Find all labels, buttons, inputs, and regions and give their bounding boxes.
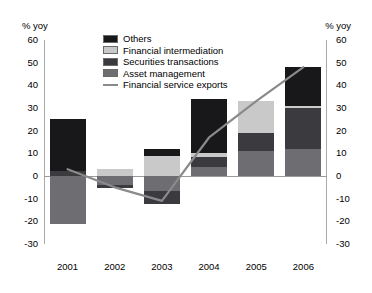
y-tick-left-30: 30 bbox=[14, 103, 38, 113]
x-tick-2004: 2004 bbox=[189, 261, 229, 272]
legend-item-others[interactable]: Others bbox=[103, 33, 228, 45]
legend-label: Financial service exports bbox=[123, 79, 228, 91]
y-tick-right-30: 30 bbox=[336, 103, 360, 113]
chart-container: % yoy % yoy 6050403020100-10-20-30 60504… bbox=[0, 0, 372, 293]
y-tick-right-neg30: -30 bbox=[336, 239, 360, 249]
x-tick-2003: 2003 bbox=[142, 261, 182, 272]
y-tick-right-0: 0 bbox=[336, 171, 360, 181]
legend-label: Financial intermediation bbox=[123, 45, 223, 57]
y-tick-right-neg20: -20 bbox=[336, 216, 360, 226]
y-tick-left-10: 10 bbox=[14, 148, 38, 158]
y-tick-right-40: 40 bbox=[336, 80, 360, 90]
legend-swatch-securities-transactions bbox=[103, 58, 118, 66]
legend-swatch-others bbox=[103, 35, 118, 43]
legend-item-securities-transactions[interactable]: Securities transactions bbox=[103, 56, 228, 68]
y-axis-unit-right: % yoy bbox=[325, 20, 351, 31]
y-tick-left-neg20: -20 bbox=[14, 216, 38, 226]
y-tick-left-60: 60 bbox=[14, 35, 38, 45]
legend-label: Asset management bbox=[123, 68, 205, 80]
y-tick-right-neg10: -10 bbox=[336, 194, 360, 204]
legend-item-financial-service-exports[interactable]: Financial service exports bbox=[103, 79, 228, 91]
y-tick-right-20: 20 bbox=[336, 126, 360, 136]
x-tick-2005: 2005 bbox=[236, 261, 276, 272]
x-tick-2002: 2002 bbox=[95, 261, 135, 272]
y-tick-right-60: 60 bbox=[336, 35, 360, 45]
legend-item-asset-management[interactable]: Asset management bbox=[103, 68, 228, 80]
y-tick-left-50: 50 bbox=[14, 58, 38, 68]
y-tick-left-0: 0 bbox=[14, 171, 38, 181]
x-tick-2006: 2006 bbox=[283, 261, 323, 272]
legend-label: Securities transactions bbox=[123, 56, 219, 68]
x-tick-2001: 2001 bbox=[48, 261, 88, 272]
y-axis-unit-left: % yoy bbox=[22, 20, 48, 31]
legend-swatch-asset-management bbox=[103, 69, 118, 77]
y-tick-right-10: 10 bbox=[336, 148, 360, 158]
legend-item-financial-intermediation[interactable]: Financial intermediation bbox=[103, 45, 228, 57]
y-tick-left-20: 20 bbox=[14, 126, 38, 136]
legend-swatch-financial-intermediation bbox=[103, 46, 118, 54]
chart-legend: OthersFinancial intermediationSecurities… bbox=[103, 33, 228, 91]
y-tick-left-neg10: -10 bbox=[14, 194, 38, 204]
legend-line-financial-service-exports bbox=[103, 81, 118, 89]
y-tick-left-neg30: -30 bbox=[14, 239, 38, 249]
y-tick-right-50: 50 bbox=[336, 58, 360, 68]
y-tick-left-40: 40 bbox=[14, 80, 38, 90]
legend-label: Others bbox=[123, 33, 152, 45]
